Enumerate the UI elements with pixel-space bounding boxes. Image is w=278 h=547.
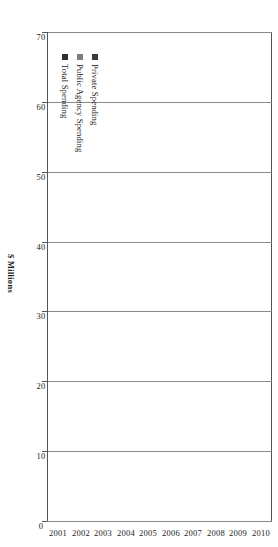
chart-frame: 010203040506070 201020092008200720062005… (0, 0, 278, 547)
category-label-text: 2003 (94, 528, 112, 538)
legend-item[interactable]: Public Agency Spending (75, 54, 85, 152)
category-label-2008: 2008 (205, 521, 228, 545)
legend-item[interactable]: Total Spending (60, 54, 70, 152)
bar-group (237, 32, 272, 521)
category-label-text: 2006 (162, 528, 180, 538)
category-label-2006: 2006 (160, 521, 183, 545)
category-label-2004: 2004 (115, 521, 138, 545)
category-label-text: 2009 (229, 528, 247, 538)
axis-tick-label: 20 (37, 381, 46, 391)
rotated-chart-canvas: 010203040506070 201020092008200720062005… (0, 0, 278, 547)
value-axis-line (47, 32, 48, 521)
bar-group (96, 32, 131, 521)
axis-tick-label: 60 (37, 102, 46, 112)
legend-swatch-icon (92, 54, 98, 60)
category-label-text: 2001 (49, 528, 67, 538)
chart-legend: Private SpendingPublic Agency SpendingTo… (60, 54, 100, 152)
category-label-2009: 2009 (227, 521, 250, 545)
bar-group (167, 32, 202, 521)
chart-page: 010203040506070 201020092008200720062005… (0, 0, 278, 547)
category-label-text: 2010 (252, 528, 270, 538)
legend-item-label: Total Spending (60, 64, 70, 118)
category-label-2003: 2003 (92, 521, 115, 545)
category-label-text: 2007 (184, 528, 202, 538)
category-label-2010: 2010 (250, 521, 273, 545)
category-label-text: 2008 (207, 528, 225, 538)
legend-swatch-icon (62, 54, 68, 60)
axis-tick-label: 70 (37, 32, 46, 42)
axis-tick-label: 30 (37, 311, 46, 321)
category-label-2002: 2002 (70, 521, 93, 545)
axis-tick-label: 40 (37, 242, 46, 252)
category-label-2001: 2001 (47, 521, 70, 545)
legend-swatch-icon (77, 54, 83, 60)
legend-item-label: Private Spending (90, 64, 100, 126)
legend-item[interactable]: Private Spending (90, 54, 100, 152)
bar-group (202, 32, 237, 521)
category-label-2005: 2005 (137, 521, 160, 545)
axis-tick-label: 0 (39, 521, 43, 531)
category-axis: 2010200920082007200620052004200320022001 (47, 521, 272, 545)
category-label-2007: 2007 (182, 521, 205, 545)
legend-item-label: Public Agency Spending (75, 64, 85, 152)
bar-group (131, 32, 166, 521)
category-label-text: 2005 (139, 528, 157, 538)
category-label-text: 2004 (117, 528, 135, 538)
axis-tick-label: 10 (37, 451, 46, 461)
axis-tick-label: 50 (37, 172, 46, 182)
value-axis-title: $ Millions (6, 0, 16, 547)
category-label-text: 2002 (72, 528, 90, 538)
